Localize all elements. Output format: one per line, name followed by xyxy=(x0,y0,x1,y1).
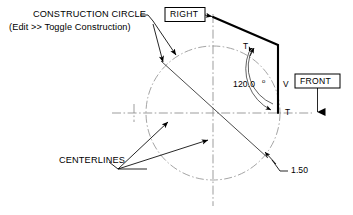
centerlines-leader-to-horizontal xyxy=(118,122,168,169)
centerlines-annotation: CENTERLINES xyxy=(59,155,125,165)
angle-dimension-value: 120.0 xyxy=(233,79,255,89)
radius-dimension-value: 1.50 xyxy=(291,165,308,175)
tangent-marker-lower: T xyxy=(285,107,290,117)
front-label-text: FRONT xyxy=(300,76,332,86)
vertical-constraint-marker: V xyxy=(283,79,289,89)
tangent-marker-upper: T xyxy=(243,41,248,51)
construction-circle-annotation-line1: CONSTRUCTION CIRCLE xyxy=(33,9,146,19)
drawing-canvas: RIGHT FRONT CONSTRUCTION CIRCLE (Edit >>… xyxy=(0,0,353,215)
right-label-text: RIGHT xyxy=(170,9,199,19)
construction-circle-annotation-line2: (Edit >> Toggle Construction) xyxy=(9,22,131,32)
technical-drawing: RIGHT FRONT CONSTRUCTION CIRCLE (Edit >>… xyxy=(0,0,353,215)
angle-arc-secondary xyxy=(248,48,273,104)
diagonal-construction-line xyxy=(161,61,268,158)
construction-circle-leader-2 xyxy=(153,24,163,62)
right-leader-line xyxy=(205,15,212,17)
angle-degree-symbol: o xyxy=(262,78,266,84)
centerlines-leader-to-vertical xyxy=(118,140,208,169)
radius-dimension-arrow xyxy=(265,152,276,164)
